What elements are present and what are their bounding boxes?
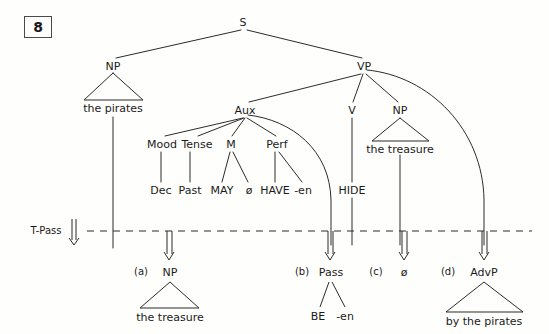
movement-curve-aux-to-pass (248, 115, 331, 245)
node-tense: Tense (181, 139, 212, 150)
output-d-index: (d) (441, 267, 455, 277)
output-c-index: (c) (369, 267, 382, 277)
terminal-the-pirates: the pirates (83, 103, 143, 114)
syntax-tree-figure: 8 (0, 0, 549, 334)
terminal-m-zero: ø (246, 185, 253, 196)
output-a-terminal: the treasure (136, 312, 203, 323)
triangle-output-d (446, 282, 523, 312)
output-a-label: NP (163, 267, 178, 278)
tree-lines-layer (0, 0, 549, 334)
terminal-past: Past (179, 185, 202, 196)
output-d-terminal: by the pirates (446, 316, 523, 327)
node-vp: VP (357, 61, 371, 72)
output-b-index: (b) (295, 267, 309, 277)
triangle-the-treasure (372, 118, 429, 141)
node-perf: Perf (266, 139, 287, 150)
node-aux: Aux (234, 105, 255, 116)
edge-vp-aux (249, 74, 361, 102)
node-s: S (240, 17, 247, 28)
output-a-index: (a) (134, 267, 148, 277)
edge-perf-en (279, 152, 302, 182)
edge-s-vp (247, 30, 362, 58)
t-pass-arrow-icon (69, 219, 79, 245)
output-d-label: AdvP (470, 267, 497, 278)
output-b-child-be: BE (311, 311, 326, 322)
edge-vp-np (366, 74, 398, 102)
edge-m-may (222, 152, 230, 182)
edge-s-np (116, 30, 241, 58)
edge-m-zero (233, 152, 248, 182)
output-b-label: Pass (319, 267, 343, 278)
output-arrow-a (164, 231, 174, 260)
node-np-subject: NP (106, 61, 121, 72)
t-pass-label: T-Pass (31, 226, 62, 236)
terminal-may: MAY (211, 185, 234, 196)
terminal-dec: Dec (150, 185, 171, 196)
terminal-hide: HIDE (339, 185, 366, 196)
edge-pass-be (320, 282, 329, 307)
triangle-output-a (140, 282, 199, 308)
output-b-child-en: -en (336, 311, 354, 322)
output-arrow-b (325, 231, 335, 260)
terminal-en: -en (294, 185, 312, 196)
edge-vp-v (353, 74, 363, 102)
edge-pass-en (332, 282, 345, 307)
node-np-object: NP (393, 105, 408, 116)
edge-aux-m (232, 118, 245, 136)
node-m: M (226, 139, 236, 150)
triangle-the-pirates (84, 73, 143, 100)
node-v: V (348, 105, 356, 116)
node-mood: Mood (147, 139, 177, 150)
movement-curve-vp-to-advp (367, 70, 484, 245)
terminal-have: HAVE (260, 185, 290, 196)
terminal-the-treasure: the treasure (366, 144, 433, 155)
output-c-label: ø (401, 267, 408, 278)
